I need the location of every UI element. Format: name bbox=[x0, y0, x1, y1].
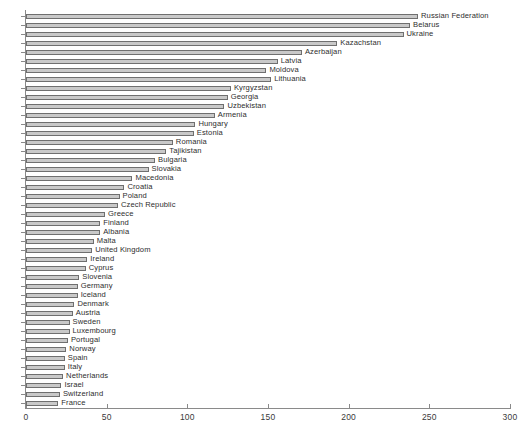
y-axis-tick bbox=[21, 223, 25, 224]
y-axis-tick bbox=[21, 367, 25, 368]
bar[interactable] bbox=[26, 302, 74, 307]
y-axis-tick bbox=[21, 196, 25, 197]
x-axis-tick-label: 0 bbox=[24, 412, 29, 422]
bar[interactable] bbox=[26, 374, 63, 379]
y-axis-tick bbox=[21, 304, 25, 305]
x-axis-tick-label: 100 bbox=[180, 412, 195, 422]
bar[interactable] bbox=[26, 347, 66, 352]
bar[interactable] bbox=[26, 77, 271, 82]
bar[interactable] bbox=[26, 158, 155, 163]
y-axis-tick bbox=[21, 169, 25, 170]
y-axis-tick bbox=[21, 115, 25, 116]
bar[interactable] bbox=[26, 59, 278, 64]
bar[interactable] bbox=[26, 50, 302, 55]
y-axis-tick bbox=[21, 205, 25, 206]
y-axis-tick bbox=[21, 268, 25, 269]
bar[interactable] bbox=[26, 239, 94, 244]
bar[interactable] bbox=[26, 185, 124, 190]
bar[interactable] bbox=[26, 221, 100, 226]
y-axis-tick bbox=[21, 394, 25, 395]
bar[interactable] bbox=[26, 14, 418, 19]
bar[interactable] bbox=[26, 176, 132, 181]
x-axis-tick-label: 150 bbox=[261, 412, 276, 422]
y-axis-tick bbox=[21, 88, 25, 89]
y-axis-tick bbox=[21, 295, 25, 296]
y-axis-tick bbox=[21, 70, 25, 71]
y-axis-tick bbox=[21, 385, 25, 386]
y-axis-tick bbox=[21, 241, 25, 242]
bar[interactable] bbox=[26, 68, 266, 73]
bar[interactable] bbox=[26, 338, 68, 343]
y-axis-tick bbox=[21, 61, 25, 62]
bar[interactable] bbox=[26, 311, 73, 316]
y-axis-tick bbox=[21, 358, 25, 359]
bar[interactable] bbox=[26, 113, 215, 118]
bar-chart: 050100150200250300 Russian FederationBel… bbox=[0, 0, 526, 440]
y-axis-tick bbox=[21, 349, 25, 350]
y-axis-tick bbox=[21, 97, 25, 98]
bar[interactable] bbox=[26, 167, 149, 172]
x-axis-tick-label: 300 bbox=[503, 412, 518, 422]
y-axis-tick bbox=[21, 313, 25, 314]
bar[interactable] bbox=[26, 230, 100, 235]
bar-label: France bbox=[61, 398, 85, 408]
bar-label: Lithuania bbox=[274, 74, 306, 84]
x-axis-tick bbox=[187, 404, 188, 409]
x-axis-tick-label: 250 bbox=[422, 412, 437, 422]
bar[interactable] bbox=[26, 203, 118, 208]
x-axis-tick bbox=[349, 404, 350, 409]
bar[interactable] bbox=[26, 248, 92, 253]
y-axis-tick bbox=[21, 340, 25, 341]
y-axis-tick bbox=[21, 178, 25, 179]
bar[interactable] bbox=[26, 104, 224, 109]
bar[interactable] bbox=[26, 86, 231, 91]
y-axis-tick bbox=[21, 142, 25, 143]
y-axis-tick bbox=[21, 151, 25, 152]
bar[interactable] bbox=[26, 41, 337, 46]
y-axis-tick bbox=[21, 43, 25, 44]
x-axis-tick-label: 200 bbox=[341, 412, 356, 422]
y-axis-tick bbox=[21, 376, 25, 377]
y-axis-tick bbox=[21, 133, 25, 134]
bar[interactable] bbox=[26, 257, 87, 262]
x-axis-tick bbox=[429, 404, 430, 409]
bar-label: Ukraine bbox=[407, 29, 434, 39]
bar[interactable] bbox=[26, 194, 120, 199]
bar-label: Azerbaijan bbox=[305, 47, 342, 57]
bar[interactable] bbox=[26, 131, 194, 136]
bar[interactable] bbox=[26, 356, 65, 361]
bar[interactable] bbox=[26, 32, 404, 37]
y-axis-tick bbox=[21, 124, 25, 125]
bar[interactable] bbox=[26, 401, 58, 406]
bar-label: Kazachstan bbox=[340, 38, 381, 48]
bar[interactable] bbox=[26, 284, 78, 289]
bar[interactable] bbox=[26, 365, 65, 370]
bar[interactable] bbox=[26, 122, 195, 127]
y-axis-tick bbox=[21, 16, 25, 17]
y-axis-tick bbox=[21, 232, 25, 233]
bar[interactable] bbox=[26, 275, 79, 280]
bar[interactable] bbox=[26, 23, 410, 28]
y-axis-tick bbox=[21, 52, 25, 53]
bar[interactable] bbox=[26, 266, 86, 271]
y-axis-tick bbox=[21, 25, 25, 26]
bar[interactable] bbox=[26, 392, 60, 397]
bar[interactable] bbox=[26, 212, 105, 217]
y-axis-tick bbox=[21, 259, 25, 260]
bar[interactable] bbox=[26, 383, 61, 388]
y-axis-tick bbox=[21, 106, 25, 107]
y-axis-tick bbox=[21, 250, 25, 251]
y-axis-tick bbox=[21, 160, 25, 161]
y-axis-tick bbox=[21, 79, 25, 80]
x-axis-tick bbox=[107, 404, 108, 409]
bar[interactable] bbox=[26, 320, 70, 325]
y-axis-tick bbox=[21, 277, 25, 278]
bar[interactable] bbox=[26, 329, 70, 334]
bar[interactable] bbox=[26, 149, 166, 154]
bar[interactable] bbox=[26, 140, 173, 145]
x-axis-tick bbox=[510, 404, 511, 409]
bar[interactable] bbox=[26, 95, 228, 100]
bar[interactable] bbox=[26, 293, 78, 298]
y-axis-tick bbox=[21, 187, 25, 188]
y-axis-tick bbox=[21, 286, 25, 287]
